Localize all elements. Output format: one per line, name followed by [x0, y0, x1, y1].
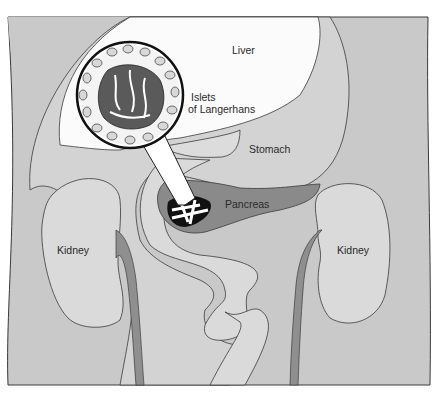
label-stomach: Stomach — [249, 144, 290, 155]
label-islets-line2: of Langerhans — [188, 104, 255, 115]
islets-magnified-view — [77, 42, 183, 148]
label-islets-line1: Islets — [191, 92, 216, 103]
label-pancreas: Pancreas — [225, 199, 269, 210]
label-liver: Liver — [232, 45, 255, 56]
anatomy-illustration — [0, 0, 438, 406]
anatomy-diagram: Liver Islets of Langerhans Stomach Pancr… — [0, 0, 438, 406]
label-kidney-right: Kidney — [337, 245, 369, 256]
label-kidney-left: Kidney — [57, 245, 89, 256]
